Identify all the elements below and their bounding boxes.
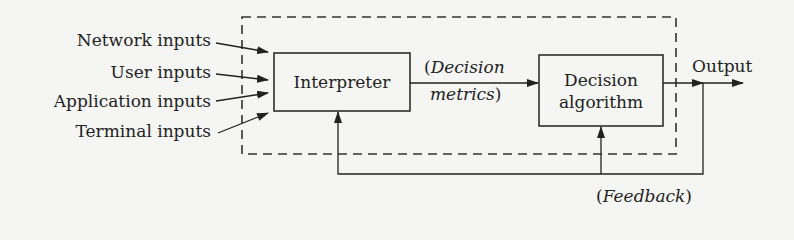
feedback-paren-open: ( [596, 186, 603, 206]
output-label: Output [692, 56, 752, 76]
paren-open: ( [424, 57, 431, 77]
network-inputs-label: Network inputs [0, 30, 211, 50]
decision-metrics-line1: (Decision [424, 57, 505, 77]
feedback-text: Feedback [603, 186, 686, 206]
application-input-arrow [216, 93, 268, 101]
decision-metrics-line2: metrics) [430, 84, 501, 104]
terminal-input-arrow [218, 113, 268, 133]
terminal-inputs-label: Terminal inputs [0, 121, 211, 141]
paren-close: ) [495, 84, 502, 104]
user-inputs-label: User inputs [0, 62, 211, 82]
interpreter-text: Interpreter [294, 71, 391, 93]
application-inputs-label: Application inputs [0, 91, 211, 111]
interpreter-label: Interpreter [274, 53, 410, 111]
decision-algorithm-line2: algorithm [559, 91, 643, 113]
decision-metrics-word1: Decision [431, 57, 505, 77]
decision-algorithm-line1: Decision [564, 69, 638, 91]
feedback-label: (Feedback) [596, 186, 692, 206]
feedback-paren-close: ) [685, 186, 692, 206]
decision-algorithm-label: Decision algorithm [539, 55, 663, 126]
decision-metrics-word2: metrics [430, 84, 495, 104]
